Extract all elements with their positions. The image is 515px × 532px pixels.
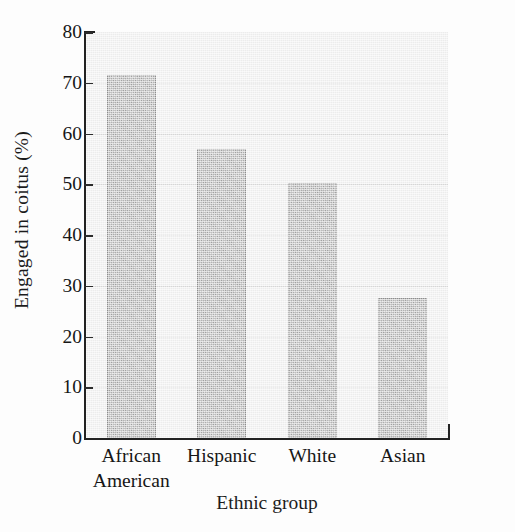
y-axis-tick-label: 10 [40,377,82,397]
y-axis-tick-label: 40 [40,225,82,245]
y-axis-tick-label: 60 [40,124,82,144]
y-axis-tick-mark [84,134,93,136]
y-axis-title: Engaged in coitus (%) [0,0,44,440]
y-axis-tick-label: 70 [40,73,82,93]
x-axis-tick-label: African American [86,443,177,493]
y-axis-tick-label: 80 [40,22,82,42]
y-axis-tick-label: 20 [40,327,82,347]
bar [378,298,427,438]
bar [197,149,246,438]
x-axis-tick-label: Asian [358,443,449,468]
y-axis-tick-mark [84,235,93,237]
bar [288,183,337,438]
y-axis-tick-mark [84,83,93,85]
y-axis-tick-label: 30 [40,276,82,296]
x-axis-tick-label: Hispanic [177,443,268,468]
y-axis-title-text: Engaged in coitus (%) [11,131,33,309]
y-axis-tick-mark [84,286,93,288]
y-axis-tick-mark [84,337,93,339]
y-axis-tick-mark [84,32,93,34]
x-axis-tick-label: White [267,443,358,468]
y-axis-tick-labels: 01020304050607080 [40,0,82,532]
y-axis-tick-mark [84,184,93,186]
plot-area [86,32,448,438]
y-axis-tick-label: 0 [40,428,82,448]
x-axis-title: Ethnic group [86,492,448,514]
x-axis-line [84,438,450,440]
bar [107,75,156,438]
y-axis-tick-mark [84,387,93,389]
bar-chart-figure: Engaged in coitus (%) 01020304050607080 … [0,0,515,532]
y-axis-tick-label: 50 [40,174,82,194]
x-axis-end-cap [448,424,450,439]
